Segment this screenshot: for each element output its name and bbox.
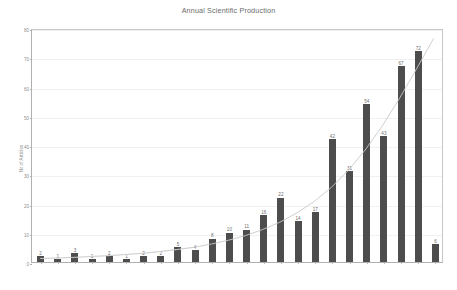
x-tick-mark <box>92 262 93 264</box>
x-tick-mark <box>161 262 162 264</box>
bar[interactable] <box>363 104 370 262</box>
y-tick-mark <box>30 59 32 60</box>
bar-value-label: 67 <box>399 61 404 66</box>
bar[interactable] <box>174 247 181 262</box>
y-tick-label: 40 <box>24 145 29 150</box>
bar-value-label: 42 <box>330 134 335 139</box>
x-tick-mark <box>418 262 419 264</box>
bar-value-label: 54 <box>364 99 369 104</box>
bar[interactable] <box>226 233 233 262</box>
gridline <box>32 89 442 90</box>
plot-area: Nr of Articles 01020304050607080 2131212… <box>31 29 443 263</box>
bar[interactable] <box>415 51 422 262</box>
x-tick-mark <box>144 262 145 264</box>
x-tick-mark <box>212 262 213 264</box>
y-tick-label: 70 <box>24 57 29 62</box>
x-tick-mark <box>195 262 196 264</box>
bar[interactable] <box>398 66 405 262</box>
x-tick-mark <box>75 262 76 264</box>
x-tick-mark <box>298 262 299 264</box>
bar[interactable] <box>329 139 336 262</box>
y-tick-label: 10 <box>24 232 29 237</box>
y-tick-label: 80 <box>24 28 29 33</box>
y-tick-label: 0 <box>26 262 29 267</box>
bar-value-label: 1 <box>91 254 94 259</box>
x-tick-mark <box>229 262 230 264</box>
early-trend-dotted-path <box>41 247 195 258</box>
y-tick-mark <box>30 206 32 207</box>
bar[interactable] <box>243 230 250 262</box>
trend-line-path <box>41 39 434 259</box>
y-tick-mark <box>30 264 32 265</box>
bar[interactable] <box>346 171 353 262</box>
x-tick-mark <box>109 262 110 264</box>
x-tick-mark <box>384 262 385 264</box>
bar-value-label: 1 <box>125 254 128 259</box>
bar-value-label: 22 <box>278 192 283 197</box>
y-tick-label: 30 <box>24 174 29 179</box>
bar-value-label: 6 <box>434 239 437 244</box>
y-tick-label: 50 <box>24 115 29 120</box>
bar-value-label: 2 <box>108 251 111 256</box>
y-tick-mark <box>30 147 32 148</box>
bar-value-label: 16 <box>261 210 266 215</box>
bar-value-label: 4 <box>194 245 197 250</box>
gridline <box>32 30 442 31</box>
bar-value-label: 72 <box>416 46 421 51</box>
bar-value-label: 5 <box>177 242 180 247</box>
y-tick-mark <box>30 235 32 236</box>
chart-title: Annual Scientific Production <box>0 6 457 15</box>
bar-value-label: 11 <box>244 224 249 229</box>
bar[interactable] <box>192 250 199 262</box>
gridline <box>32 59 442 60</box>
bar-value-label: 2 <box>39 251 42 256</box>
bar-value-label: 17 <box>313 207 318 212</box>
bar[interactable] <box>209 239 216 262</box>
x-tick-mark <box>178 262 179 264</box>
x-tick-mark <box>315 262 316 264</box>
x-tick-mark <box>367 262 368 264</box>
x-tick-mark <box>281 262 282 264</box>
x-tick-mark <box>401 262 402 264</box>
y-tick-mark <box>30 30 32 31</box>
y-tick-mark <box>30 176 32 177</box>
x-tick-mark <box>58 262 59 264</box>
y-tick-label: 20 <box>24 203 29 208</box>
bar[interactable] <box>71 253 78 262</box>
x-tick-mark <box>435 262 436 264</box>
bar-value-label: 10 <box>227 227 232 232</box>
x-tick-mark <box>41 262 42 264</box>
bar[interactable] <box>432 244 439 262</box>
bar-value-label: 3 <box>74 248 77 253</box>
y-tick-label: 60 <box>24 86 29 91</box>
x-tick-mark <box>332 262 333 264</box>
bar-value-label: 14 <box>296 216 301 221</box>
bar[interactable] <box>295 221 302 262</box>
annual-scientific-production-chart: Annual Scientific Production Nr of Artic… <box>0 0 457 290</box>
y-tick-mark <box>30 118 32 119</box>
bar-value-label: 2 <box>159 251 162 256</box>
x-tick-mark <box>350 262 351 264</box>
bar-value-label: 31 <box>347 166 352 171</box>
bar-value-label: 43 <box>381 131 386 136</box>
bar[interactable] <box>380 136 387 262</box>
x-tick-mark <box>264 262 265 264</box>
bar[interactable] <box>260 215 267 262</box>
gridline <box>32 118 442 119</box>
bar-value-label: 2 <box>142 251 145 256</box>
bar[interactable] <box>312 212 319 262</box>
x-tick-mark <box>247 262 248 264</box>
x-tick-mark <box>126 262 127 264</box>
bar[interactable] <box>277 198 284 262</box>
bar-value-label: 8 <box>211 233 214 238</box>
y-tick-mark <box>30 89 32 90</box>
bar-value-label: 1 <box>56 254 59 259</box>
